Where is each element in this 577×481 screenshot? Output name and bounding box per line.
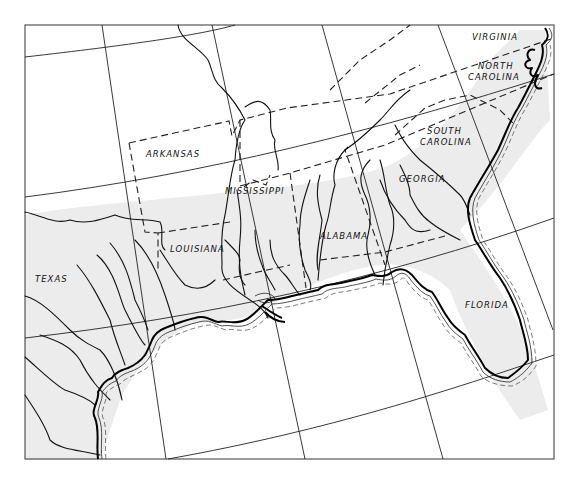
map-canvas: VIRGINIA NORTH CAROLINA SOUTH CAROLINA A… bbox=[0, 0, 577, 481]
label-arkansas: ARKANSAS bbox=[145, 149, 200, 159]
label-georgia: GEORGIA bbox=[399, 174, 445, 184]
coastal-plain-shading bbox=[25, 30, 550, 460]
label-south-carolina-line2: CAROLINA bbox=[420, 137, 472, 147]
label-north-carolina-line2: CAROLINA bbox=[468, 72, 520, 82]
label-north-carolina-line1: NORTH bbox=[478, 61, 514, 71]
label-alabama: ALABAMA bbox=[319, 231, 368, 241]
label-virginia: VIRGINIA bbox=[472, 32, 518, 42]
label-louisiana: LOUISIANA bbox=[170, 244, 225, 254]
label-florida: FLORIDA bbox=[465, 300, 509, 310]
label-mississippi: MISSISSIPPI bbox=[225, 186, 285, 196]
label-texas: TEXAS bbox=[35, 274, 68, 284]
label-south-carolina-line1: SOUTH bbox=[427, 126, 462, 136]
